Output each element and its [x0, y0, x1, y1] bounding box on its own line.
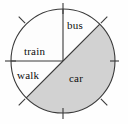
pie-label-train: train — [24, 46, 45, 57]
pie-chart-svg — [0, 0, 128, 124]
tick-mark-225deg — [19, 99, 25, 105]
tick-mark-315deg — [101, 99, 107, 105]
pie-label-walk: walk — [17, 70, 39, 81]
tick-mark-45deg — [101, 17, 107, 23]
pie-chart-figure: bus train walk car — [0, 0, 128, 124]
pie-label-car: car — [69, 73, 83, 84]
tick-mark-135deg — [19, 17, 25, 23]
pie-label-bus: bus — [67, 20, 83, 31]
